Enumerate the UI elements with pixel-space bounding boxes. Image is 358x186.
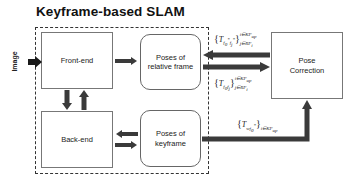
front-to-back-arrow: [62, 90, 72, 110]
keyframe-to-back-arrow: [116, 130, 138, 138]
correction-to-relative-arrow: [203, 50, 270, 60]
label-keyframe-to-correction: {Twf0*}i∈KFup: [237, 118, 278, 133]
relative-to-correction-arrow: [203, 62, 270, 72]
back-to-keyframe-arrow: [115, 141, 137, 149]
image-input-arrow: [28, 56, 42, 68]
arrows-layer: [0, 0, 358, 186]
front-to-relative-arrow: [115, 57, 137, 65]
back-to-front-arrow: [79, 90, 89, 110]
label-correction-to-relative: {Tf0*fj*}i∈KFupj∈RFi: [214, 31, 257, 49]
label-relative-to-correction: {Tf0fj}i∈KFupj∈RFi: [214, 75, 252, 93]
